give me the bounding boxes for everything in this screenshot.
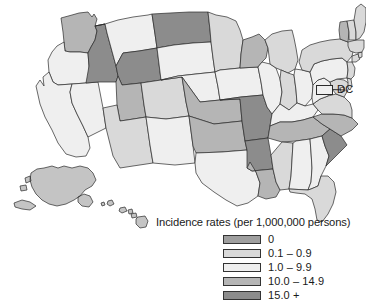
legend-swatch [223,235,261,244]
legend-label: 0.1 – 0.9 [268,248,312,259]
state-AK[interactable] [14,166,96,210]
state-WY[interactable] [116,48,161,85]
legend-swatch [223,263,261,272]
map-legend: Incidence rates (per 1,000,000 persons) … [156,216,364,303]
legend-title: Incidence rates (per 1,000,000 persons) [156,216,364,229]
state-NJ[interactable] [347,62,355,79]
legend-row[interactable]: 10.0 – 14.9 [223,275,364,288]
dc-callout: DC [316,84,353,95]
state-OH[interactable] [294,69,313,106]
state-AL[interactable] [289,139,312,190]
legend-label: 15.0 + [268,290,300,301]
legend-label: 0 [268,234,274,245]
legend-swatch [223,249,261,258]
state-NM[interactable] [146,116,195,165]
state-CO[interactable] [141,77,189,119]
legend-row[interactable]: 0 [223,233,364,246]
state-MA[interactable] [348,40,364,53]
legend-row[interactable]: 15.0 + [223,289,364,302]
legend-label: 10.0 – 14.9 [268,276,324,287]
choropleth-map-figure: DC Incidence rates (per 1,000,000 person… [0,0,366,306]
legend-label: 1.0 – 9.9 [268,262,312,273]
dc-label: DC [337,84,353,95]
dc-swatch [316,85,333,95]
legend-swatch [223,291,261,300]
legend-row[interactable]: 1.0 – 9.9 [223,261,364,274]
state-IA[interactable] [215,67,263,100]
legend-swatch [223,277,261,286]
legend-items: 0 0.1 – 0.9 1.0 – 9.9 10.0 – 14.9 15.0 + [223,233,364,302]
state-ME[interactable] [354,4,366,40]
legend-row[interactable]: 0.1 – 0.9 [223,247,364,260]
state-HI[interactable] [101,200,148,228]
